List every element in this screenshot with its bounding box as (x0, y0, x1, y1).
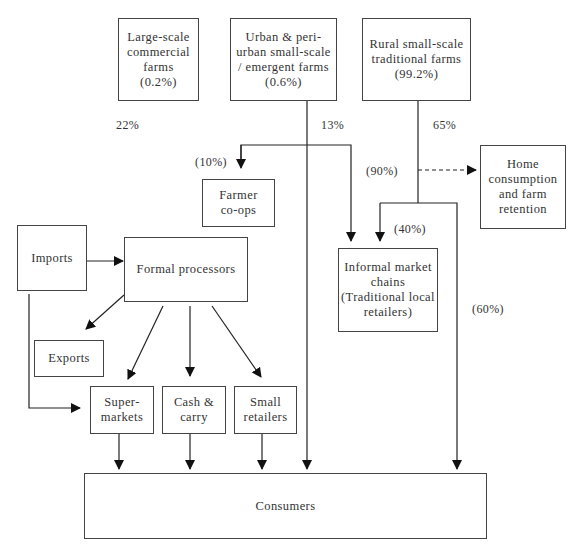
label-large-share: 22% (116, 118, 139, 133)
label-home-share: (90%) (366, 164, 398, 179)
label-direct-share: (60%) (472, 302, 504, 317)
node-imports: Imports (17, 225, 87, 291)
label-coops-share: (10%) (195, 155, 227, 170)
node-cash-carry: Cash & carry (162, 386, 226, 434)
label-rural-share: 65% (433, 118, 456, 133)
node-urban-farms: Urban & peri- urban small-scale / emerge… (230, 18, 337, 101)
node-farmer-coops: Farmer co-ops (202, 179, 275, 227)
node-informal-chains: Informal market chains (Traditional loca… (338, 248, 438, 332)
node-small-retailers: Small retailers (234, 386, 297, 434)
node-formal-processors: Formal processors (124, 237, 248, 302)
node-large-scale-farms: Large-scale commercial farms (0.2%) (118, 18, 199, 101)
node-exports: Exports (34, 340, 104, 377)
label-informal-share: (40%) (394, 222, 426, 237)
node-consumers: Consumers (84, 473, 487, 539)
node-home-consumption: Home consumption and farm retention (480, 145, 566, 229)
node-supermarkets: Super- markets (90, 386, 154, 434)
label-urban-share: 13% (321, 118, 344, 133)
node-rural-farms: Rural small-scale traditional farms (99.… (362, 18, 471, 101)
